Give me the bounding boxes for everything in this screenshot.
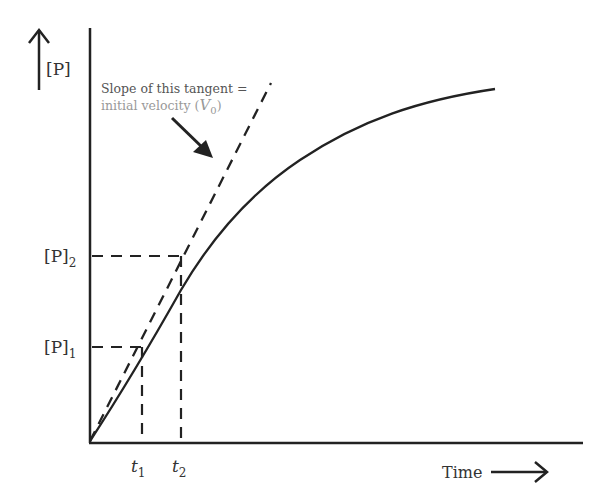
y-axis-label: [P] bbox=[46, 59, 71, 79]
x-tick-t2: t2 bbox=[172, 456, 186, 480]
y-tick-p1: [P]1 bbox=[44, 337, 76, 361]
y-tick-p2: [P]2 bbox=[44, 246, 76, 270]
annotation-pointer-arrow-icon bbox=[172, 118, 213, 158]
progress-curve bbox=[90, 89, 495, 441]
x-axis-right-arrow-icon bbox=[491, 462, 547, 482]
x-tick-t1: t1 bbox=[131, 456, 145, 480]
x-axis-label: Time bbox=[442, 463, 482, 482]
annotation-line1: Slope of this tangent = bbox=[101, 81, 248, 96]
annotation-line2: initial velocity (V0) bbox=[101, 96, 222, 116]
progress-curve-diagram: [P] [P]2 [P]1 t1 t2 Time Slope of this t… bbox=[0, 0, 614, 503]
